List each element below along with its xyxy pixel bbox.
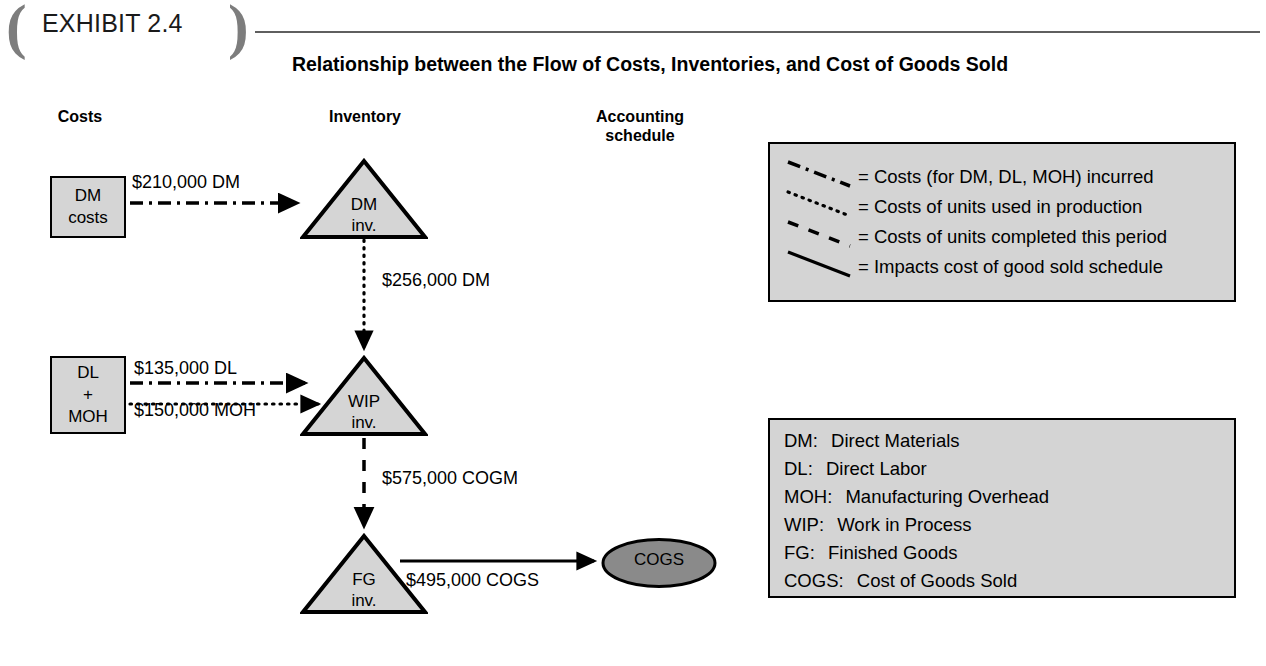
abbreviation-value: Cost of Goods Sold <box>857 570 1017 592</box>
header-divider-rule <box>255 31 1260 33</box>
exhibit-header: ( EXHIBIT 2.4 ) <box>0 0 660 56</box>
wip-inv-line1: WIP <box>300 391 428 412</box>
legend-panel: = Costs (for DM, DL, MOH) incurred = Cos… <box>768 142 1236 302</box>
flow-label-dm-incurred: $210,000 DM <box>132 172 240 193</box>
dl-moh-line2: + <box>83 384 93 406</box>
legend-sample-dash-dot-icon <box>788 162 850 186</box>
legend-sample-dotted-icon <box>788 192 850 216</box>
wip-inv-labels: WIP inv. <box>300 391 428 433</box>
page-title: Relationship between the Flow of Costs, … <box>150 53 1150 76</box>
dl-moh-line1: DL <box>77 362 99 384</box>
abbreviations-panel: DM: Direct Materials DL: Direct Labor MO… <box>768 418 1236 598</box>
dm-inv-line1: DM <box>300 194 428 215</box>
flow-label-cogm: $575,000 COGM <box>382 468 518 489</box>
bracket-right-icon: ) <box>228 2 262 54</box>
node-dm-inventory: DM inv. <box>300 158 428 240</box>
legend-item-2: = Costs of units completed this period <box>858 226 1167 248</box>
abbreviation-row: DL: Direct Labor <box>784 458 927 480</box>
legend-item-0: = Costs (for DM, DL, MOH) incurred <box>858 166 1154 188</box>
accounting-header-line1: Accounting <box>560 107 720 126</box>
abbreviation-row: MOH: Manufacturing Overhead <box>784 486 1049 508</box>
abbreviation-value: Work in Process <box>837 514 971 536</box>
abbreviation-value: Direct Labor <box>826 458 927 480</box>
abbreviation-key: FG: <box>784 542 815 564</box>
flow-label-dl-incurred: $135,000 DL <box>134 358 237 379</box>
flow-label-moh-incurred: $150,000 MOH <box>134 400 256 421</box>
column-header-inventory: Inventory <box>295 107 435 126</box>
abbreviation-row: FG: Finished Goods <box>784 542 958 564</box>
abbreviation-key: COGS: <box>784 570 844 592</box>
flow-label-cogs: $495,000 COGS <box>406 570 539 591</box>
abbreviation-value: Direct Materials <box>831 430 960 452</box>
accounting-header-line2: schedule <box>560 126 720 145</box>
dm-costs-line2: costs <box>68 207 108 229</box>
legend-sample-solid-icon <box>788 252 850 276</box>
abbreviation-key: WIP: <box>784 514 824 536</box>
abbreviation-key: MOH: <box>784 486 832 508</box>
legend-sample-dashed-icon <box>788 222 850 246</box>
dl-moh-line3: MOH <box>68 406 108 428</box>
flow-label-dm-used: $256,000 DM <box>382 270 490 291</box>
abbreviation-value: Finished Goods <box>828 542 958 564</box>
node-dl-moh-costs: DL + MOH <box>50 356 126 434</box>
abbreviation-row: WIP: Work in Process <box>784 514 972 536</box>
abbreviation-row: COGS: Cost of Goods Sold <box>784 570 1017 592</box>
abbreviation-key: DM: <box>784 430 818 452</box>
cogs-label: COGS <box>600 550 718 570</box>
dm-inv-labels: DM inv. <box>300 194 428 236</box>
column-header-accounting-schedule: Accounting schedule <box>560 107 720 145</box>
node-cogs: COGS <box>600 537 718 589</box>
abbreviation-row: DM: Direct Materials <box>784 430 960 452</box>
dm-costs-line1: DM <box>75 185 101 207</box>
exhibit-label: EXHIBIT 2.4 <box>42 9 183 38</box>
column-header-costs: Costs <box>20 107 140 126</box>
legend-item-3: = Impacts cost of good sold schedule <box>858 256 1163 278</box>
abbreviation-value: Manufacturing Overhead <box>845 486 1049 508</box>
node-wip-inventory: WIP inv. <box>300 355 428 437</box>
abbreviation-key: DL: <box>784 458 813 480</box>
fg-inv-line2: inv. <box>300 590 428 611</box>
legend-item-1: = Costs of units used in production <box>858 196 1142 218</box>
bracket-left-icon: ( <box>6 2 40 54</box>
wip-inv-line2: inv. <box>300 412 428 433</box>
exhibit-diagram-page: ( EXHIBIT 2.4 ) Relationship between the… <box>0 0 1266 666</box>
dm-inv-line2: inv. <box>300 215 428 236</box>
node-dm-costs: DM costs <box>50 176 126 238</box>
